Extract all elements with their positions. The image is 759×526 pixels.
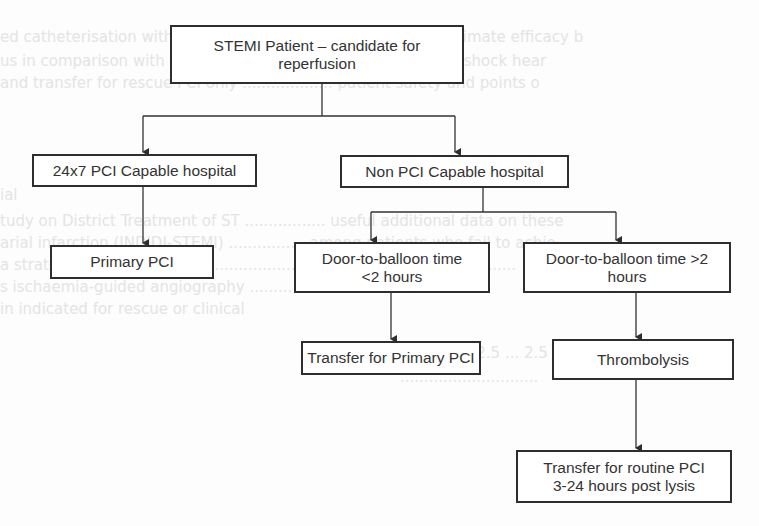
node-label: Non PCI Capable hospital [365, 163, 543, 181]
node-pci-capable-hospital: 24x7 PCI Capable hospital [32, 154, 257, 187]
node-thrombolysis: Thrombolysis [552, 339, 734, 380]
node-label: Door-to-balloon time >2 [546, 250, 708, 268]
node-label: Primary PCI [90, 253, 174, 271]
node-label: Thrombolysis [597, 351, 689, 369]
node-label: <2 hours [322, 268, 462, 286]
node-label: hours [546, 268, 708, 286]
node-stemi-patient: STEMI Patient – candidate for reperfusio… [170, 25, 464, 84]
node-transfer-routine-pci: Transfer for routine PCI 3-24 hours post… [516, 450, 732, 503]
node-label: Transfer for Primary PCI [307, 349, 474, 367]
node-door-to-balloon-under-2h: Door-to-balloon time <2 hours [294, 242, 490, 293]
node-transfer-primary-pci: Transfer for Primary PCI [301, 341, 481, 375]
node-door-to-balloon-over-2h: Door-to-balloon time >2 hours [523, 242, 731, 293]
node-label: Transfer for routine PCI [543, 459, 704, 477]
node-label: 24x7 PCI Capable hospital [53, 162, 237, 180]
node-label: Door-to-balloon time [322, 250, 462, 268]
node-primary-pci: Primary PCI [50, 245, 214, 279]
node-non-pci-capable-hospital: Non PCI Capable hospital [340, 155, 569, 188]
node-label: STEMI Patient – candidate for [214, 37, 421, 55]
node-label: reperfusion [214, 55, 421, 73]
node-label: 3-24 hours post lysis [543, 477, 704, 495]
